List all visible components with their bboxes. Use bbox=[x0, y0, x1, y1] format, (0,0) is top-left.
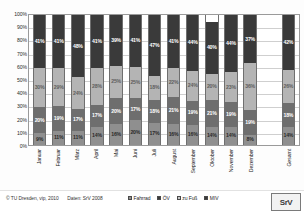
x-axis-label-slot: Oktober bbox=[203, 147, 222, 189]
legend-swatch bbox=[157, 196, 161, 200]
segment-value-label: 8% bbox=[247, 137, 254, 142]
bar-slot: 44%24%19%16% bbox=[183, 15, 202, 145]
segment-value-label: 41% bbox=[35, 39, 45, 44]
segment-value-label: 25% bbox=[130, 80, 140, 85]
legend-label: zu Fuß bbox=[182, 195, 197, 201]
bar-segment: 18% bbox=[149, 100, 160, 123]
bar-segment: 41% bbox=[130, 15, 141, 67]
x-axis-label-slot: Juni bbox=[125, 147, 144, 189]
stacked-bar: 42%26%18%14% bbox=[282, 15, 295, 145]
legend-item: zu Fuß bbox=[177, 195, 197, 201]
bar-segment: 28% bbox=[91, 68, 102, 104]
bar-segment: 11% bbox=[72, 131, 83, 145]
segment-value-label: 24% bbox=[73, 91, 83, 96]
segment-value-label: 18% bbox=[150, 85, 160, 90]
segment-value-label: 21% bbox=[169, 108, 179, 113]
segment-value-label: 25% bbox=[111, 79, 121, 84]
stacked-bar: 48%24%17%11% bbox=[71, 15, 84, 145]
source-text: Daten: SrV 2008 bbox=[67, 196, 102, 201]
segment-value-label: 23% bbox=[226, 85, 236, 90]
segment-value-label: 36% bbox=[245, 84, 255, 89]
legend-label: Fahrrad bbox=[134, 195, 151, 201]
segment-value-label: 44% bbox=[188, 40, 198, 45]
bar-segment: 18% bbox=[149, 76, 160, 99]
x-axis-tick-label: Dezember bbox=[248, 149, 254, 172]
copyright-text: © TU Dresden, vip, 2010 bbox=[6, 196, 59, 201]
bar-segment: 19% bbox=[53, 106, 64, 131]
x-axis-label-slot: Januar bbox=[29, 147, 48, 189]
bar-segment: 17% bbox=[149, 123, 160, 145]
segment-value-label: 19% bbox=[245, 120, 255, 125]
x-axis-label-slot: Juli bbox=[145, 147, 164, 189]
y-axis-tick-label: 30% bbox=[2, 104, 27, 109]
x-axis-label-slot: November bbox=[222, 147, 241, 189]
x-axis-tick-label: Mai bbox=[113, 149, 119, 157]
y-axis: 100%90%80%70%60%50%40%30%20%10%0% bbox=[2, 14, 27, 146]
bar-segment: 16% bbox=[168, 124, 179, 145]
bar-segment: 18% bbox=[283, 103, 294, 126]
bar-slot: 41%22%21%16% bbox=[164, 15, 183, 145]
bar-slot: 47%18%18%17% bbox=[145, 15, 164, 145]
segment-value-label: 20% bbox=[111, 109, 121, 114]
stacked-bar: 44%23%19%14% bbox=[224, 15, 237, 145]
legend-item: ÖV bbox=[157, 195, 170, 201]
segment-value-label: 48% bbox=[73, 44, 83, 49]
y-axis-tick-label: 40% bbox=[2, 91, 27, 96]
x-axis-tick-label: November bbox=[228, 149, 234, 172]
bar-slot: 41%25%17%20% bbox=[126, 15, 145, 145]
bar-segment: 47% bbox=[149, 15, 160, 76]
bar-segment: 40% bbox=[206, 22, 217, 74]
credit-text: © TU Dresden, vip, 2010 Daten: SrV 2008 bbox=[6, 196, 103, 201]
bar-slot: 44%23%19%14% bbox=[221, 15, 240, 145]
segment-value-label: 9% bbox=[36, 137, 43, 142]
bar-group: 41%30%20%9%41%29%19%11%48%24%17%11%41%28… bbox=[29, 15, 299, 145]
segment-value-label: 22% bbox=[169, 80, 179, 85]
bar-segment: 14% bbox=[91, 127, 102, 145]
chart-legend: FahrradÖVzu FußMIV bbox=[128, 195, 218, 201]
bar-segment: 29% bbox=[53, 68, 64, 106]
bar-segment: 11% bbox=[53, 131, 64, 145]
y-axis-tick-label: 70% bbox=[2, 51, 27, 56]
x-axis-tick-label: Februar bbox=[55, 149, 61, 166]
bar-segment: 17% bbox=[91, 105, 102, 127]
bar-segment: 44% bbox=[187, 15, 198, 71]
bar-segment: 41% bbox=[91, 15, 102, 68]
legend-swatch bbox=[204, 196, 208, 200]
bar-slot bbox=[260, 15, 279, 145]
y-axis-tick-label: 10% bbox=[2, 130, 27, 135]
bar-segment: 41% bbox=[34, 15, 45, 68]
bar-segment: 19% bbox=[244, 110, 255, 135]
bar-slot: 41%30%20%9% bbox=[30, 15, 49, 145]
segment-value-label: 19% bbox=[188, 110, 198, 115]
stacked-bar: 47%18%18%17% bbox=[148, 15, 161, 145]
bar-segment: 25% bbox=[130, 67, 141, 99]
stacked-bar: 41%30%20%9% bbox=[33, 15, 46, 145]
bar-segment: 30% bbox=[34, 68, 45, 107]
bar-segment: 39% bbox=[110, 15, 121, 66]
segment-value-label: 18% bbox=[150, 109, 160, 114]
bar-segment: 44% bbox=[225, 15, 236, 72]
x-axis-label-slot: Gesamt bbox=[280, 147, 299, 189]
segment-value-label: 41% bbox=[169, 39, 179, 44]
segment-value-label: 18% bbox=[284, 113, 294, 118]
segment-value-label: 17% bbox=[92, 113, 102, 118]
legend-swatch bbox=[177, 196, 181, 200]
segment-value-label: 14% bbox=[207, 133, 217, 138]
bar-segment: 24% bbox=[187, 71, 198, 101]
y-axis-tick-label: 90% bbox=[2, 25, 27, 30]
bar-segment: 19% bbox=[187, 101, 198, 125]
bar-segment: 14% bbox=[225, 127, 236, 145]
x-axis-tick-label: April bbox=[93, 149, 99, 159]
stacked-bar: 41%28%17%14% bbox=[90, 15, 103, 145]
legend-swatch bbox=[128, 196, 132, 200]
segment-value-label: 14% bbox=[284, 133, 294, 138]
bar-segment: 37% bbox=[244, 15, 255, 63]
y-axis-tick-label: 20% bbox=[2, 117, 27, 122]
segment-value-label: 11% bbox=[73, 135, 83, 140]
bar-segment: 19% bbox=[225, 102, 236, 127]
bar-segment: 42% bbox=[283, 15, 294, 70]
plot-container: 100%90%80%70%60%50%40%30%20%10%0% 41%30%… bbox=[0, 0, 304, 190]
bar-segment: 23% bbox=[225, 72, 236, 102]
x-axis-label-slot: April bbox=[87, 147, 106, 189]
x-axis-tick-label: März bbox=[74, 149, 80, 160]
